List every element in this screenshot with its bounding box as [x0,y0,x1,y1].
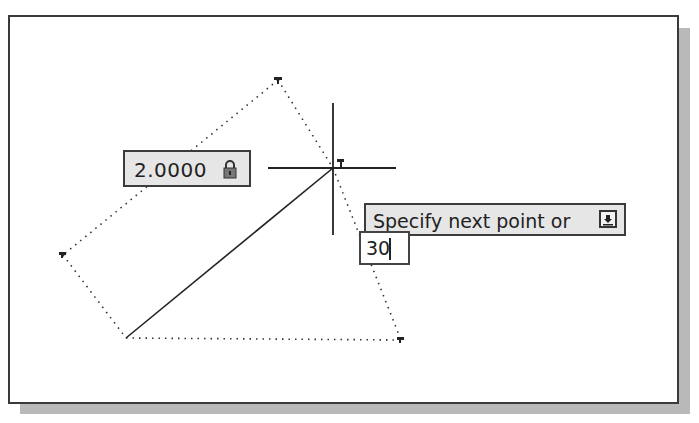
lock-icon[interactable] [222,159,238,179]
line-segment [126,168,333,338]
text-caret [389,238,391,260]
length-value: 2.0000 [134,158,207,182]
length-tooltip[interactable]: 2.0000 [123,150,251,187]
angle-input[interactable]: 30 [359,231,410,265]
dropdown-arrow-icon[interactable] [599,210,617,228]
prompt-text: Specify next point or [373,210,570,232]
angle-value: 30 [366,237,390,259]
rubber-band-polygon [63,80,401,340]
